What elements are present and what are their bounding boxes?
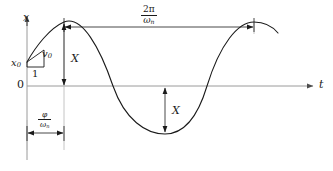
phase-omega-subscript: n — [46, 123, 49, 129]
t-axis-label: t — [319, 79, 323, 90]
x-axis-label: x — [23, 12, 29, 23]
displacement-curve — [27, 21, 278, 134]
amplitude-lower-label: X — [172, 105, 180, 116]
initial-displacement-subscript: 0 — [17, 61, 21, 69]
period-omega-symbol: ω — [143, 15, 150, 25]
period-denominator: ωn — [141, 16, 157, 26]
origin-label: 0 — [17, 79, 24, 90]
phase-shift-label: φ ωn — [38, 111, 51, 129]
slope-run-label: 1 — [32, 69, 38, 79]
figure-canvas — [0, 0, 333, 171]
initial-velocity-label: v0 — [42, 49, 52, 60]
period-label: 2π ωn — [141, 5, 157, 26]
phase-numerator: φ — [38, 111, 51, 119]
phase-denominator: ωn — [38, 121, 51, 129]
amplitude-upper-label: X — [71, 53, 79, 64]
harmonic-motion-figure: x t 0 x0 v0 1 X X 2π ωn φ ωn — [0, 0, 333, 171]
initial-displacement-label: x0 — [11, 58, 21, 69]
period-omega-subscript: n — [151, 19, 155, 26]
initial-velocity-subscript: 0 — [48, 52, 52, 60]
period-numerator: 2π — [141, 5, 157, 14]
